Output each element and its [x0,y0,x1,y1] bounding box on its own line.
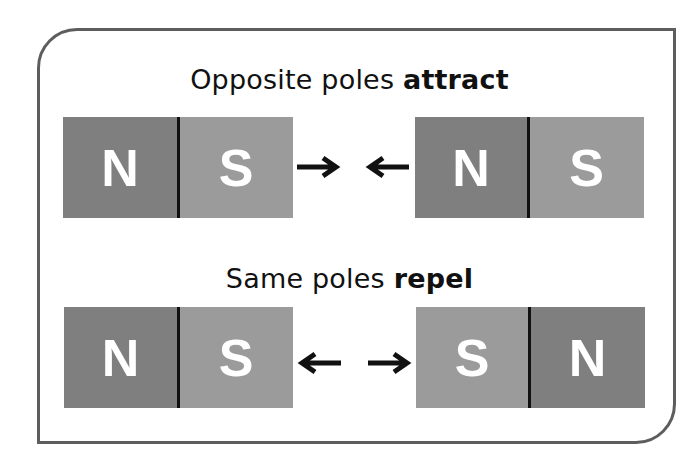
section-title-repel: Same poles repel [0,263,699,295]
pole-label: N [569,328,607,388]
bar-magnet-bottom-left: N S [64,307,293,408]
title-text: Same poles [226,263,394,294]
magnet-pole-north: N [64,307,177,408]
magnet-pole-south: S [180,307,293,408]
magnet-pole-south: S [416,307,528,408]
section-title-attract: Opposite poles attract [0,64,699,96]
title-emphasis: repel [394,263,474,294]
left-arrow-icon [365,155,411,179]
title-emphasis: attract [403,64,509,95]
magnet-pole-south: S [530,117,644,218]
bar-magnet-top-left: N S [63,117,293,218]
pole-label: S [455,328,490,388]
pole-label: S [219,138,254,198]
pole-label: N [452,138,490,198]
magnet-pole-north: N [63,117,177,218]
magnet-pole-south: S [180,117,293,218]
pole-label: S [219,328,254,388]
bar-magnet-bottom-right: S N [416,307,645,408]
title-text: Opposite poles [190,64,403,95]
pole-label: N [102,328,140,388]
magnet-pole-north: N [531,307,645,408]
right-arrow-icon [366,351,412,375]
bar-magnet-top-right: N S [415,117,644,218]
left-arrow-icon [297,351,343,375]
pole-label: N [101,138,139,198]
magnet-pole-north: N [415,117,527,218]
pole-label: S [569,138,604,198]
right-arrow-icon [295,155,341,179]
